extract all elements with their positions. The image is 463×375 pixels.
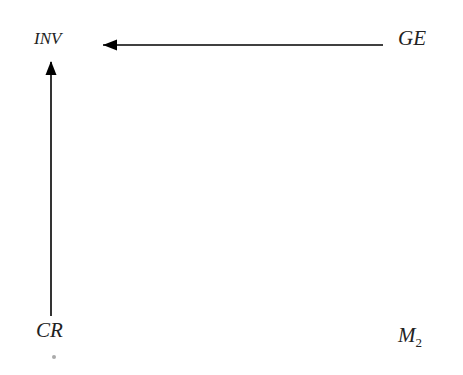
edge-cr-to-inv bbox=[46, 61, 57, 316]
arrowhead-icon bbox=[46, 61, 57, 75]
stray-dot bbox=[52, 355, 56, 359]
edge-ge-to-inv bbox=[103, 40, 383, 51]
edges-layer bbox=[0, 0, 463, 375]
arrowhead-icon bbox=[103, 40, 117, 51]
